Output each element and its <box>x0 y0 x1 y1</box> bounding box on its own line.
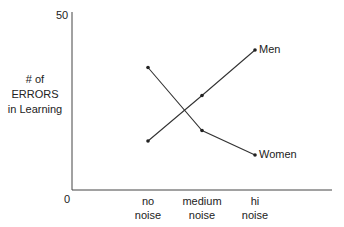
series-line-women <box>148 68 255 156</box>
y-axis-label-line: # of <box>2 72 68 87</box>
data-point <box>200 94 204 98</box>
x-category-line: noise <box>225 208 285 222</box>
x-category-line: medium <box>172 194 232 208</box>
data-point <box>253 153 257 157</box>
y-tick-zero: 0 <box>64 193 70 206</box>
data-point <box>146 66 150 70</box>
data-point <box>146 139 150 143</box>
x-category-line: noise <box>172 208 232 222</box>
series-label-women: Women <box>259 148 297 161</box>
x-category-line: no <box>118 194 178 208</box>
y-tick-max: 50 <box>56 9 68 22</box>
series-label-men: Men <box>259 43 280 56</box>
data-point <box>200 129 204 133</box>
y-axis-label-line: ERRORS <box>2 87 68 102</box>
y-axis-label: # of ERRORS in Learning <box>2 72 68 117</box>
series-layer <box>146 48 257 157</box>
x-category-hi-noise: hi noise <box>225 194 285 222</box>
data-point <box>253 48 257 52</box>
x-category-line: noise <box>118 208 178 222</box>
y-axis-label-line: in Learning <box>2 102 68 117</box>
x-category-medium-noise: medium noise <box>172 194 232 222</box>
x-category-no-noise: no noise <box>118 194 178 222</box>
x-category-line: hi <box>225 194 285 208</box>
